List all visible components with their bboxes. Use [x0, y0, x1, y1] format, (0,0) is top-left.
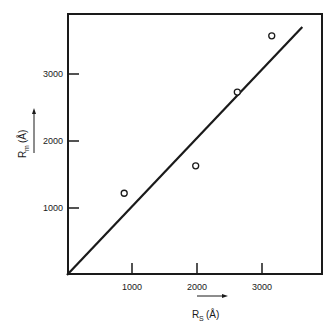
- y-label-unit: (Å): [16, 130, 28, 143]
- open-circle-marker: [193, 163, 199, 169]
- y-axis-label: R m (Å): [16, 130, 30, 158]
- y-label-sub: m: [23, 145, 30, 151]
- x-tick-label: 1000: [122, 282, 142, 292]
- open-circle-marker: [269, 33, 275, 39]
- y-tick-label: 1000: [43, 203, 63, 213]
- y-axis-ticks: 100020003000: [43, 69, 79, 213]
- scatter-chart: 100020003000 100020003000 R S (Å) R m (Å…: [0, 0, 333, 333]
- fit-line: [67, 27, 302, 275]
- x-label-sub: S: [199, 315, 204, 322]
- x-label-unit: (Å): [206, 308, 219, 320]
- x-arrow-icon: [197, 294, 228, 298]
- x-tick-label: 2000: [187, 282, 207, 292]
- regression-line: [67, 27, 302, 275]
- data-points: [121, 33, 275, 196]
- open-circle-marker: [234, 89, 240, 95]
- y-tick-label: 3000: [43, 69, 63, 79]
- y-tick-label: 2000: [43, 136, 63, 146]
- x-tick-label: 3000: [252, 282, 272, 292]
- x-axis-label: R S (Å): [192, 308, 219, 322]
- x-axis-ticks: 100020003000: [122, 263, 272, 292]
- y-arrow-icon: [32, 108, 36, 153]
- open-circle-marker: [121, 190, 127, 196]
